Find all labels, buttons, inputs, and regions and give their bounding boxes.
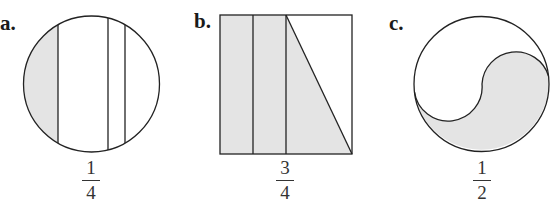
- figure-a-denominator: 4: [76, 183, 106, 202]
- figure-c-label: c.: [389, 13, 404, 34]
- figure-c-fraction-bar: [473, 180, 491, 181]
- figure-c-numerator: 1: [467, 158, 497, 177]
- figure-b-denominator: 4: [270, 183, 300, 202]
- figure-c-fraction: 1 2: [467, 158, 497, 202]
- figure-b-square: [220, 15, 352, 154]
- figure-b-label: b.: [194, 11, 211, 32]
- figure-a-circle: [20, 0, 160, 170]
- figure-c-circle: [414, 17, 549, 152]
- figure-a-numerator: 1: [76, 158, 106, 177]
- figure-a-shaded-segment: [20, 10, 58, 160]
- figure-c-denominator: 2: [467, 183, 497, 202]
- figure-a-fraction: 1 4: [76, 158, 106, 202]
- figure-b-fraction-bar: [276, 180, 294, 181]
- figure-a-label: a.: [0, 13, 16, 34]
- figure-b-fraction: 3 4: [270, 158, 300, 202]
- figure-c-shaded-region: [415, 52, 549, 150]
- figure-a-fraction-bar: [82, 180, 100, 181]
- figure-b-numerator: 3: [270, 158, 300, 177]
